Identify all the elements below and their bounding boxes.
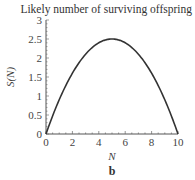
chart-plot: 024681000.511.522.53 N S(N) b [0, 0, 195, 180]
data-line [46, 39, 178, 134]
x-tick-label: 2 [70, 136, 76, 148]
x-tick-label: 8 [149, 136, 155, 148]
x-axis-label: N [107, 150, 116, 162]
x-tick-label: 6 [122, 136, 128, 148]
y-tick-label: 2 [37, 52, 43, 64]
panel-label: b [109, 164, 116, 178]
x-tick-label: 0 [43, 136, 49, 148]
y-tick-label: 0 [37, 128, 43, 140]
y-tick-label: 0.5 [28, 109, 42, 121]
y-tick-label: 1 [37, 90, 43, 102]
y-tick-label: 3 [37, 14, 43, 26]
y-tick-label: 2.5 [28, 33, 42, 45]
x-tick-label: 10 [173, 136, 185, 148]
y-tick-label: 1.5 [28, 71, 42, 83]
x-tick-label: 4 [96, 136, 102, 148]
axes: 024681000.511.522.53 [28, 14, 184, 148]
y-axis-label: S(N) [4, 67, 17, 88]
